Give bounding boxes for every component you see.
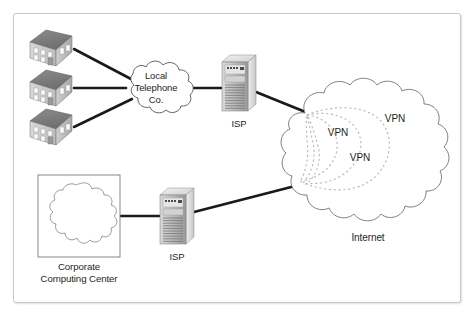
- building-door: [48, 137, 53, 144]
- server-side-face: [248, 55, 256, 111]
- internet-label: Internet: [340, 232, 396, 244]
- diagram-canvas: Local Telephone Co. ISP ISP VPN VPN VPN …: [0, 0, 474, 327]
- corporate-label-line2: Computing Center: [22, 273, 136, 284]
- internet-cloud-outline: [281, 78, 449, 221]
- server-panel: [163, 209, 183, 215]
- link-isp-bottom-internet: [194, 185, 299, 212]
- vpn-label-3: VPN: [345, 152, 375, 164]
- internet-cloud: [281, 78, 449, 221]
- server-side-face: [186, 188, 194, 244]
- telco-label-line3: Co.: [139, 94, 173, 105]
- isp-bottom-label: ISP: [161, 251, 193, 262]
- building-door: [48, 58, 53, 65]
- building-3: [30, 109, 72, 145]
- building-door: [48, 98, 53, 105]
- telco-label-line2: Telephone: [125, 82, 187, 93]
- server-panel: [225, 76, 245, 82]
- link-building3-telco: [74, 99, 132, 127]
- building-2: [30, 70, 72, 106]
- corporate-computing-center: [38, 175, 120, 257]
- corporate-label-line1: Corporate: [39, 261, 119, 272]
- isp-server-bottom: [160, 188, 194, 244]
- isp-top-label: ISP: [223, 118, 255, 129]
- vpn-label-1: VPN: [380, 113, 410, 125]
- vpn-label-2: VPN: [323, 127, 353, 139]
- telco-label-line1: Local: [133, 70, 179, 81]
- link-building1-telco: [74, 49, 131, 79]
- building-1: [30, 30, 72, 66]
- isp-server-top: [222, 55, 256, 111]
- link-isp-top-internet: [256, 92, 308, 113]
